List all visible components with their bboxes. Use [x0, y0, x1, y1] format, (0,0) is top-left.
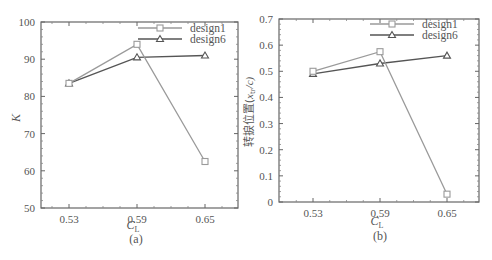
plot-frame-b — [279, 19, 479, 202]
x-tick-label: 0.65 — [437, 207, 457, 219]
y-tick-label: 0.7 — [259, 13, 273, 25]
y-tick-label: 0.1 — [259, 170, 273, 182]
chart-panel-b: 00.10.20.30.40.50.60.7 0.530.590.65 desi… — [242, 13, 479, 243]
y-tick-label: 0 — [268, 196, 274, 208]
square-marker-icon — [310, 68, 316, 74]
y-tick-label: 60 — [24, 165, 36, 177]
square-marker-icon — [377, 49, 383, 55]
x-tick-label: 0.53 — [303, 207, 323, 219]
y-axis-label-a: K — [9, 113, 23, 123]
square-marker-icon — [389, 21, 395, 27]
series-line-design1 — [69, 44, 205, 161]
series-b — [310, 49, 451, 197]
caption-a: (a) — [129, 232, 142, 246]
y-axis-ticks-b: 00.10.20.30.40.50.60.7 — [259, 13, 479, 208]
y-tick-label: 80 — [24, 90, 36, 102]
legend-label-design6: design6 — [190, 33, 226, 46]
y-tick-label: 90 — [24, 53, 36, 65]
x-tick-label: 0.53 — [59, 213, 79, 225]
square-marker-icon — [66, 80, 72, 86]
y-tick-label: 0.6 — [259, 39, 273, 51]
y-tick-label: 0.5 — [259, 65, 273, 77]
square-marker-icon — [202, 159, 208, 165]
square-marker-icon — [157, 25, 163, 31]
x-axis-ticks-a: 0.530.590.65 — [52, 22, 222, 225]
y-tick-label: 50 — [24, 202, 36, 214]
series-line-design1 — [313, 52, 447, 194]
triangle-marker-icon — [444, 52, 451, 58]
y-axis-label-b: 转捩位置(xtr/c) — [242, 76, 257, 147]
legend-b: design1design6 — [370, 18, 458, 42]
y-tick-label: 70 — [24, 128, 36, 140]
y-tick-label: 0.4 — [259, 91, 273, 103]
x-tick-label: 0.65 — [195, 213, 215, 225]
square-marker-icon — [444, 191, 450, 197]
square-marker-icon — [134, 41, 140, 47]
series-a — [66, 41, 209, 164]
legend-label-design6: design6 — [422, 29, 458, 42]
caption-b: (b) — [373, 229, 387, 243]
y-tick-label: 100 — [19, 16, 36, 28]
figure: 5060708090100 0.530.590.65 design1design… — [0, 0, 492, 260]
y-tick-label: 0.2 — [259, 144, 273, 156]
y-tick-label: 0.3 — [259, 118, 273, 130]
legend-a: design1design6 — [138, 22, 226, 46]
y-axis-ticks-a: 5060708090100 — [19, 16, 239, 214]
chart-panel-a: 5060708090100 0.530.590.65 design1design… — [9, 16, 238, 246]
